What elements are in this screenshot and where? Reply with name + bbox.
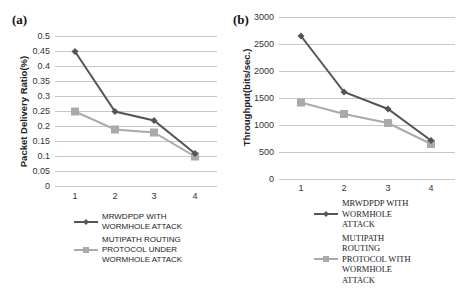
chart-panel-b: (b) Throughput(bits/sec.) 3000 2500 2000… xyxy=(230,0,469,291)
legend-label: MUTIPATH ROUTING PROTOCOL UNDER WORMHOLE… xyxy=(102,235,182,265)
x-tick: 3 xyxy=(148,191,160,201)
legend-item: MRWDPDP WITH WORMHOLE ATTACK xyxy=(314,198,411,230)
chart-panel-a: (a) Packet Delivery Ratio(%) 0.5 0.45 0.… xyxy=(0,0,235,291)
series-line-b-2 xyxy=(75,112,195,157)
legend-a: MRWDPDP WITH WORMHOLE ATTACK MUTIPATH RO… xyxy=(74,212,182,268)
legend-b: MRWDPDP WITH WORMHOLE ATTACK MUTIPATH RO… xyxy=(314,198,411,288)
x-tick: 1 xyxy=(69,191,81,201)
x-tick: 4 xyxy=(189,191,201,201)
x-tick: 3 xyxy=(382,183,394,193)
x-tick: 2 xyxy=(338,183,350,193)
plot-area-b xyxy=(230,0,469,200)
legend-item: MRWDPDP WITH WORMHOLE ATTACK xyxy=(74,212,182,232)
plot-area-a xyxy=(0,0,235,200)
x-tick: 1 xyxy=(295,183,307,193)
legend-label: MRWDPDP WITH WORMHOLE ATTACK xyxy=(102,212,182,232)
legend-label: MUTIPATH ROUTING PROTOCOL WITH WORMHOLE … xyxy=(342,233,411,286)
x-tick: 2 xyxy=(109,191,121,201)
legend-label: MRWDPDP WITH WORMHOLE ATTACK xyxy=(342,198,408,230)
x-tick: 4 xyxy=(425,183,437,193)
legend-item: MUTIPATH ROUTING PROTOCOL UNDER WORMHOLE… xyxy=(74,235,182,265)
legend-item: MUTIPATH ROUTING PROTOCOL WITH WORMHOLE … xyxy=(314,233,411,286)
